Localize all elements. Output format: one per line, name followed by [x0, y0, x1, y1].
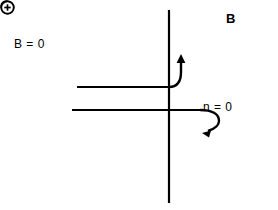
negative-arrowhead-icon [177, 54, 186, 63]
label-magnetic-field-b: B [226, 12, 235, 25]
physics-diagram: B = 0 n = 0 B [0, 0, 278, 210]
diagram-canvas [0, 0, 278, 210]
label-b-equals-zero: B = 0 [14, 38, 45, 50]
positive-arrowhead-icon [202, 131, 211, 138]
positive-charge-symbol [0, 0, 15, 15]
label-n-equals-zero: n = 0 [203, 101, 233, 113]
